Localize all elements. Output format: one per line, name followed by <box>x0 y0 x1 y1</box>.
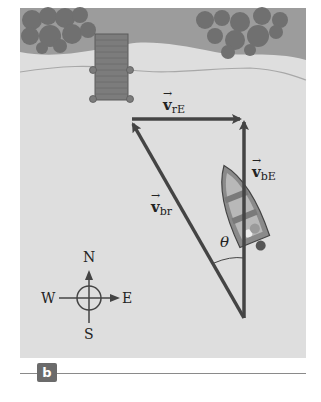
label-v-bE: →vbE <box>252 163 276 183</box>
caption-divider <box>20 373 306 374</box>
label-v-rE: →vrE <box>163 96 185 116</box>
dock <box>90 34 134 103</box>
compass-west-label: W <box>41 290 55 306</box>
compass-east-label: E <box>122 290 132 306</box>
panel-label-badge: b <box>37 363 57 382</box>
label-v-br: →vbr <box>151 198 172 218</box>
compass-south-label: S <box>84 326 94 342</box>
angle-theta-label: θ <box>220 233 229 251</box>
vector-arrow-icon: → <box>163 87 172 100</box>
vector-arrow-icon: → <box>151 189 160 202</box>
vector-arrow-icon: → <box>252 154 261 167</box>
compass-north-label: N <box>83 249 95 265</box>
water-area <box>20 8 306 358</box>
